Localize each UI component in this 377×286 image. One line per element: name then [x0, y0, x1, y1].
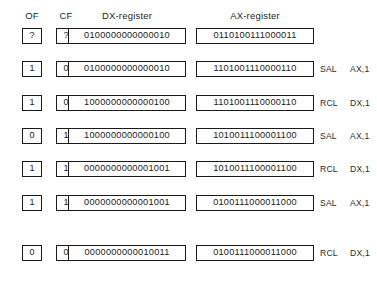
instruction-mnemonic: RCL [320, 161, 344, 177]
ax-register-box: 1101001110000110 [196, 61, 314, 77]
dx-register-box: 1000000000000100 [68, 95, 186, 111]
dx-register-box: 1000000000000100 [68, 128, 186, 144]
of-flag-box: 1 [22, 195, 42, 211]
dx-register-box: 0000000000001001 [68, 195, 186, 211]
register-trace-figure: OF CF DX-register AX-register ? ? 010000… [0, 0, 377, 286]
instruction-operand: AX,1 [350, 128, 377, 144]
instruction-mnemonic: RCL [320, 95, 344, 111]
table-row: 1 0 1000000000000100 1101001110000110 RC… [0, 95, 377, 111]
of-flag-box: 1 [22, 61, 42, 77]
instruction-mnemonic: SAL [320, 195, 344, 211]
instruction-mnemonic: RCL [320, 245, 344, 261]
table-row: 1 1 0000000000001001 0100111000011000 SA… [0, 195, 377, 211]
instruction-operand: AX,1 [350, 195, 377, 211]
of-flag-box: 1 [22, 95, 42, 111]
table-row: 1 0 0100000000000010 1101001110000110 SA… [0, 61, 377, 77]
dx-register-box: 0000000000001001 [68, 161, 186, 177]
table-row: 0 0 0000000000010011 0100111000011000 RC… [0, 245, 377, 261]
instruction-operand: DX,1 [350, 95, 377, 111]
ax-register-box: 1010011100001100 [196, 161, 314, 177]
of-flag-box: ? [22, 28, 42, 44]
ax-register-box: 0100111000011000 [196, 245, 314, 261]
ax-register-box: 1010011100001100 [196, 128, 314, 144]
instruction-operand: DX,1 [350, 161, 377, 177]
ax-register-box: 0100111000011000 [196, 195, 314, 211]
dx-register-box: 0100000000000010 [68, 61, 186, 77]
table-row: 0 1 1000000000000100 1010011100001100 SA… [0, 128, 377, 144]
dx-register-box: 0000000000010011 [68, 245, 186, 261]
ax-register-box: 1101001110000110 [196, 95, 314, 111]
of-flag-box: 0 [22, 128, 42, 144]
ax-register-box: 0110100111000011 [196, 28, 314, 44]
instruction-mnemonic: SAL [320, 128, 344, 144]
column-header-of: OF [22, 10, 42, 21]
table-row: ? ? 0100000000000010 0110100111000011 [0, 28, 377, 44]
column-header-dx-register: DX-register [68, 10, 186, 21]
dx-register-box: 0100000000000010 [68, 28, 186, 44]
of-flag-box: 1 [22, 161, 42, 177]
table-row: 1 1 0000000000001001 1010011100001100 RC… [0, 161, 377, 177]
of-flag-box: 0 [22, 245, 42, 261]
column-header-ax-register: AX-register [196, 10, 314, 21]
instruction-operand: DX,1 [350, 245, 377, 261]
instruction-operand: AX,1 [350, 61, 377, 77]
instruction-mnemonic: SAL [320, 61, 344, 77]
